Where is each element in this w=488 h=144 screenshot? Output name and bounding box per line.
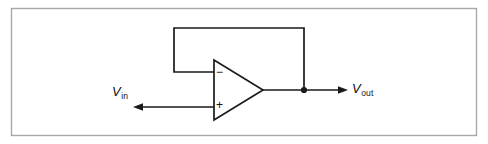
input-voltage-label: Vin [112, 83, 128, 99]
inverting-input-sign: − [216, 66, 223, 78]
output-voltage-symbol: V [352, 81, 361, 96]
input-voltage-symbol: V [112, 84, 121, 99]
input-voltage-subscript: in [121, 91, 128, 101]
output-voltage-subscript: out [361, 88, 373, 98]
noninverting-input-sign: + [216, 99, 223, 111]
output-voltage-label: Vout [352, 80, 373, 96]
circuit-schematic [0, 0, 488, 144]
figure-root: − + Vin Vout [0, 0, 488, 144]
output-junction-dot-icon [301, 87, 307, 93]
